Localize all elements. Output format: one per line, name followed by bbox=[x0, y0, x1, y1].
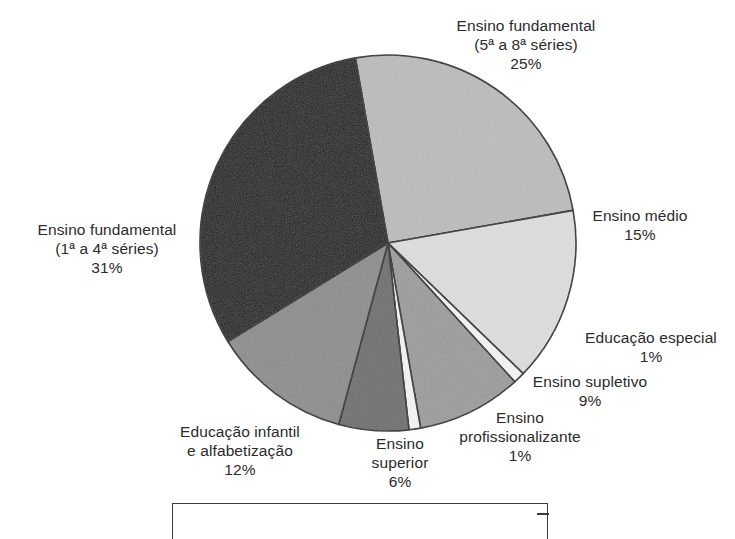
label-line-1: Educação infantil bbox=[140, 422, 340, 441]
slice-label-ensino-fundamental-1-4: Ensino fundamental (1ª a 4ª séries) 31% bbox=[2, 220, 212, 277]
label-line-1: Ensino fundamental bbox=[411, 16, 641, 35]
label-value: 1% bbox=[440, 446, 600, 465]
label-line-2: superior bbox=[345, 453, 455, 472]
label-value: 1% bbox=[566, 347, 735, 366]
label-line-1: Ensino médio bbox=[560, 206, 720, 225]
label-value: 31% bbox=[2, 258, 212, 277]
caption-frame bbox=[172, 503, 548, 539]
caption-frame-nub bbox=[537, 513, 549, 515]
label-line-1: Educação especial bbox=[566, 328, 735, 347]
label-line-1: Ensino bbox=[440, 408, 600, 427]
label-line-2: (5ª a 8ª séries) bbox=[411, 35, 641, 54]
pie-slice-ensino-fundamental-5-8 bbox=[355, 55, 573, 243]
label-line-1: Ensino fundamental bbox=[2, 220, 212, 239]
label-value: 6% bbox=[345, 472, 455, 491]
label-line-2: e alfabetização bbox=[140, 441, 340, 460]
label-line-1: Ensino supletivo bbox=[510, 372, 670, 391]
label-value: 25% bbox=[411, 54, 641, 73]
slice-label-ensino-fundamental-5-8: Ensino fundamental (5ª a 8ª séries) 25% bbox=[411, 16, 641, 73]
slice-label-ensino-superior: Ensino superior 6% bbox=[345, 434, 455, 491]
slice-label-educacao-especial: Educação especial 1% bbox=[566, 328, 735, 366]
slice-label-ensino-profissionalizante: Ensino profissionalizante 1% bbox=[440, 408, 600, 465]
label-line-1: Ensino bbox=[345, 434, 455, 453]
slice-label-ensino-medio: Ensino médio 15% bbox=[560, 206, 720, 244]
label-value: 15% bbox=[560, 225, 720, 244]
label-value: 12% bbox=[140, 460, 340, 479]
slice-label-ensino-supletivo: Ensino supletivo 9% bbox=[510, 372, 670, 410]
slice-label-educacao-infantil: Educação infantil e alfabetização 12% bbox=[140, 422, 340, 479]
label-line-2: profissionalizante bbox=[440, 427, 600, 446]
pie-chart-figure: Ensino fundamental (5ª a 8ª séries) 25% … bbox=[0, 0, 735, 539]
label-line-2: (1ª a 4ª séries) bbox=[2, 239, 212, 258]
